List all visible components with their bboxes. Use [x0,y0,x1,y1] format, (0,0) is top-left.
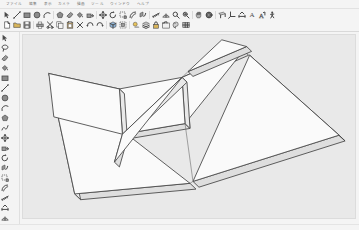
materials-button[interactable] [181,20,191,30]
pan-hand-icon [195,11,203,19]
print-button[interactable] [35,20,45,30]
sidebar-pushpull-tool[interactable] [0,143,10,153]
zoom-tool-button[interactable] [171,10,181,20]
circle-tool-button[interactable] [32,10,42,20]
section-plane-button[interactable] [217,10,227,20]
floppy-save-icon [23,21,31,29]
sidebar-rotate-tool[interactable] [0,153,10,163]
sidebar-tape-tool[interactable] [0,193,10,203]
dimension-icon [238,11,246,19]
walk-icon [268,11,276,19]
rectangle-icon [1,74,9,82]
copy-button[interactable] [55,20,65,30]
sidebar-followme-tool[interactable] [0,163,10,173]
push-pull-button[interactable] [85,10,95,20]
three-d-text-icon: A [258,11,266,19]
arc-icon [43,11,51,19]
sidebar-line-tool[interactable] [0,83,10,93]
sidebar-rectangle-tool[interactable] [0,73,10,83]
protractor-button[interactable] [161,10,171,20]
copy-pages-icon [56,21,64,29]
workspace: AA .f{fill:#fafafa;stroke:#4a4a4a;stroke… [0,32,359,224]
scenes-icon [162,21,170,29]
menu-help[interactable]: ヘルプ [134,0,153,9]
make-component-button[interactable] [108,20,118,30]
rotate-icon [109,11,117,19]
followme-tool-button[interactable] [138,10,148,20]
sidebar-move-tool[interactable] [0,133,10,143]
sidebar-select-tool[interactable] [0,33,10,43]
arc-tool-button[interactable] [42,10,52,20]
offset-icon [129,11,137,19]
paste-button[interactable] [65,20,75,30]
sidebar-offset-tool[interactable] [0,183,10,193]
paint-bucket-icon [1,64,9,72]
materials-icon [182,21,190,29]
styles-icon [172,21,180,29]
model-canvas[interactable]: .f{fill:#fafafa;stroke:#4a4a4a;stroke-wi… [22,34,356,219]
circle-icon [33,11,41,19]
line-icon [13,11,21,19]
styles-button[interactable] [171,20,181,30]
lasso-icon [1,44,9,52]
polygon-tool-button[interactable] [55,10,65,20]
menu-camera[interactable]: カメラ [55,0,74,9]
sidebar-eraser-tool[interactable] [0,53,10,63]
scene-tabs-button[interactable] [161,20,171,30]
toolbar-row-primary: AA [2,10,359,20]
sidebar-freehand-tool[interactable] [0,123,10,133]
tape-measure-button[interactable] [151,10,161,20]
polygon-icon [56,11,64,19]
sidebar-paint-tool[interactable] [0,63,10,73]
follow-me-icon [139,11,147,19]
orbit-tool-button[interactable] [204,10,214,20]
lock-button[interactable] [151,20,161,30]
protractor-icon [162,11,170,19]
paint-bucket-button[interactable] [75,10,85,20]
sidebar-circle-tool[interactable] [0,93,10,103]
rotate-tool-button[interactable] [108,10,118,20]
menu-file[interactable]: ファイル [3,0,26,9]
menu-edit[interactable]: 編集 [26,0,41,9]
move-tool-button[interactable] [98,10,108,20]
rectangle-icon [23,11,31,19]
menu-window[interactable]: ウィンドウ [107,0,134,9]
sidebar-scale-tool[interactable] [0,173,10,183]
threedtext-button[interactable]: A [257,10,267,20]
text-tool-button[interactable]: A [247,10,257,20]
walk-tool-button[interactable] [267,10,277,20]
save-document-button[interactable] [22,20,32,30]
tangram-puzzle-model[interactable]: .f{fill:#fafafa;stroke:#4a4a4a;stroke-wi… [23,35,355,218]
sidebar-dimension-tool[interactable] [0,203,10,213]
select-tool-button[interactable] [2,10,12,20]
sidebar-arc-tool[interactable] [0,103,10,113]
undo-button[interactable] [85,20,95,30]
delete-button[interactable] [75,20,85,30]
sidebar-polygon-tool[interactable] [0,113,10,123]
offset-tool-button[interactable] [128,10,138,20]
open-document-button[interactable] [12,20,22,30]
menu-tools[interactable]: ツール [88,0,107,9]
layers-button[interactable] [141,20,151,30]
cut-button[interactable] [45,20,55,30]
sidebar-protractor-tool[interactable] [0,213,10,223]
menu-view[interactable]: 表示 [40,0,55,9]
drawing-area-container: .f{fill:#fafafa;stroke:#4a4a4a;stroke-wi… [20,32,359,224]
line-tool-button[interactable] [12,10,22,20]
sidebar-lasso-tool[interactable] [0,43,10,53]
make-group-button[interactable] [118,20,128,30]
scale-tool-button[interactable] [118,10,128,20]
new-document-button[interactable] [2,20,12,30]
zoom-extents-button[interactable] [181,10,191,20]
rectangle-tool-button[interactable] [22,10,32,20]
arrow-cursor-icon [3,11,11,19]
polygon-icon [1,114,9,122]
eraser-tool-button[interactable] [65,10,75,20]
menu-draw[interactable]: 描画 [74,0,89,9]
left-tool-palette: AA [0,32,20,224]
redo-button[interactable] [95,20,105,30]
axes-tool-button[interactable] [227,10,237,20]
pan-tool-button[interactable] [194,10,204,20]
dimension-tool-button[interactable] [237,10,247,20]
shadow-settings-button[interactable] [131,20,141,30]
